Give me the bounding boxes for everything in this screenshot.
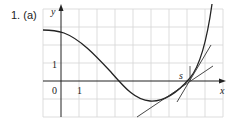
x-tick-label: 1: [77, 85, 82, 96]
y-axis-arrow-icon: [59, 4, 64, 11]
origin-label: 0: [52, 85, 57, 96]
x-axis-label: x: [219, 85, 225, 96]
grid: [43, 9, 223, 117]
tangent-line: [137, 66, 213, 117]
axes: [43, 8, 222, 117]
y-axis-label: y: [50, 6, 56, 17]
point-label-s: s: [179, 70, 183, 81]
x-axis-arrow-icon: [219, 79, 226, 84]
graph: y x 0 1 1 s: [0, 0, 234, 126]
y-tick-label: 1: [52, 59, 57, 70]
